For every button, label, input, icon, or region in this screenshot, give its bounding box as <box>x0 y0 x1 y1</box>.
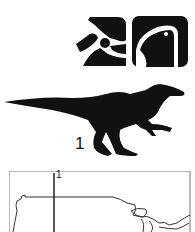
map-marker-label: 1 <box>56 169 62 180</box>
north-america-map <box>9 171 191 232</box>
silhouette-label: 1 <box>75 134 84 154</box>
theropod-dinosaur-silhouette <box>2 84 192 158</box>
dinosaur-skull-crest-icon <box>74 14 128 68</box>
dinosaur-head-profile-icon <box>132 14 188 68</box>
